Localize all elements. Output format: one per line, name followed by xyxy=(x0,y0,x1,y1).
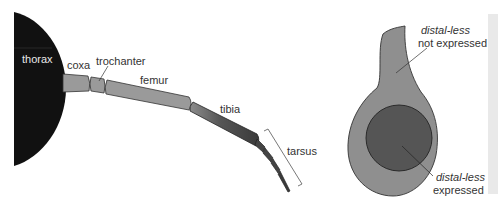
tarsus-segments: tarsus xyxy=(255,129,317,192)
coxa-segment: coxa xyxy=(63,59,91,92)
coxa-label: coxa xyxy=(67,59,91,71)
thorax-label: thorax xyxy=(22,53,53,65)
trochanter-label: trochanter xyxy=(96,55,146,67)
thorax: thorax xyxy=(14,12,66,166)
outer-gene-label: distal-less xyxy=(421,24,470,36)
disc-inner-region xyxy=(366,105,432,171)
side-panel xyxy=(488,14,498,194)
leg-diagram: thorax coxa trochanter femur tibia tarsu… xyxy=(0,0,498,205)
tibia-label: tibia xyxy=(220,103,241,115)
tarsus-label: tarsus xyxy=(287,145,317,157)
femur-segment: femur xyxy=(105,74,191,110)
outer-state-label: not expressed xyxy=(418,37,487,49)
tibia-segment: tibia xyxy=(190,102,259,146)
inner-state-label: expressed xyxy=(433,184,484,196)
imaginal-disc: distal-less not expressed distal-less ex… xyxy=(348,24,487,196)
femur-label: femur xyxy=(140,74,168,86)
inner-gene-label: distal-less xyxy=(436,171,485,183)
